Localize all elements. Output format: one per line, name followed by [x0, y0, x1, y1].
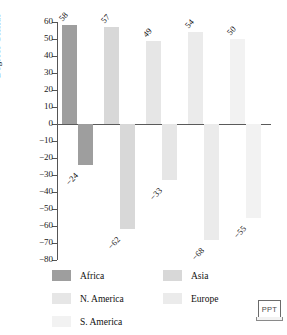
legend-label: Asia [191, 271, 208, 281]
y-tick-label: −30 [39, 168, 53, 181]
y-tick-label: 40 [44, 49, 53, 62]
laptop-icon: PPT [256, 300, 283, 325]
bar-negative [162, 124, 177, 180]
bar-positive [104, 27, 119, 124]
legend-label: S. America [80, 317, 122, 327]
legend-swatch [52, 316, 71, 327]
ppt-label: PPT [262, 305, 278, 314]
bar-negative [204, 124, 219, 240]
chart-legend: AfricaAsiaN. AmericaEuropeS. America [0, 268, 287, 335]
legend-label: Africa [80, 271, 104, 281]
y-tick-label: 50 [44, 32, 53, 45]
bar-negative [120, 124, 135, 229]
y-axis-title: Degrees Celsius [0, 14, 2, 78]
y-tick-label: −70 [39, 236, 53, 249]
bar-positive [188, 32, 203, 124]
bar-positive [230, 39, 245, 124]
y-tick-label: 30 [44, 66, 53, 79]
bar-negative [246, 124, 261, 218]
y-tick-label: −60 [39, 219, 53, 232]
legend-item[interactable]: Africa [52, 270, 104, 281]
y-tick-label: −20 [39, 151, 53, 164]
y-tick-label: −50 [39, 202, 53, 215]
legend-label: Europe [191, 294, 218, 304]
y-tick-label: −40 [39, 185, 53, 198]
bar-negative [78, 124, 93, 165]
y-tick-label: 0 [49, 117, 54, 130]
chart-container: Degrees Celsius 6050403020100−10−20−30−4… [0, 0, 287, 335]
y-tick-label: −80 [39, 253, 53, 266]
legend-item[interactable]: Asia [163, 270, 208, 281]
y-tick-label: 20 [44, 83, 53, 96]
laptop-screen: PPT [258, 300, 281, 318]
y-tick-label: 60 [44, 15, 53, 28]
legend-swatch [163, 270, 182, 281]
bar-positive [62, 25, 77, 124]
legend-item[interactable]: S. America [52, 316, 122, 327]
legend-label: N. America [80, 294, 124, 304]
laptop-base [256, 317, 283, 321]
y-tick-label: −10 [39, 134, 53, 147]
legend-swatch [52, 293, 71, 304]
legend-item[interactable]: Europe [163, 293, 218, 304]
bar-positive [146, 41, 161, 124]
y-tick-label: 10 [44, 100, 53, 113]
legend-swatch [52, 270, 71, 281]
legend-swatch [163, 293, 182, 304]
legend-item[interactable]: N. America [52, 293, 124, 304]
